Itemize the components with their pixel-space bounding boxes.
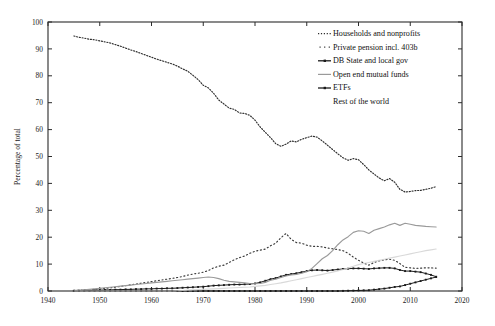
series-marker: [290, 290, 292, 292]
x-tick-label: 2010: [403, 296, 418, 305]
series-marker: [352, 290, 354, 292]
series-marker: [414, 271, 416, 273]
series-marker: [327, 270, 329, 272]
series-marker: [176, 287, 178, 289]
y-axis-title: Percentage of total: [13, 128, 22, 185]
x-tick-label: 1970: [196, 296, 211, 305]
line-chart: 0102030405060708090100194019501960197019…: [0, 0, 495, 326]
series-marker: [239, 290, 241, 292]
x-tick-label: 1950: [92, 296, 107, 305]
series-marker: [207, 285, 209, 287]
series-marker: [420, 280, 422, 282]
series-marker: [435, 276, 437, 278]
series-marker: [166, 287, 168, 289]
series-marker: [182, 287, 184, 289]
y-tick-label: 70: [36, 98, 44, 107]
series-marker: [264, 280, 266, 282]
series-marker: [368, 289, 370, 291]
series-marker: [295, 290, 297, 292]
series-marker: [171, 287, 173, 289]
series-marker: [254, 290, 256, 292]
series-marker: [373, 267, 375, 269]
series-marker: [218, 284, 220, 286]
series-marker: [399, 269, 401, 271]
series-marker: [239, 284, 241, 286]
series-marker: [430, 277, 432, 279]
series-marker: [301, 290, 303, 292]
series-marker: [373, 289, 375, 291]
series-marker: [151, 288, 153, 290]
series-marker: [233, 284, 235, 286]
series-marker: [197, 286, 199, 288]
series-marker: [145, 288, 147, 290]
series-marker: [389, 267, 391, 269]
series-marker: [202, 286, 204, 288]
series-marker: [233, 290, 235, 292]
series-marker: [404, 270, 406, 272]
y-tick-label: 20: [36, 233, 44, 242]
legend-item[interactable]: Private pension incl. 403b: [320, 43, 418, 52]
series-marker: [280, 290, 282, 292]
series-marker: [409, 283, 411, 285]
series-marker: [311, 269, 313, 271]
series-line: [74, 223, 436, 290]
series-marker: [425, 279, 427, 281]
series-marker: [135, 288, 137, 290]
series-marker: [414, 281, 416, 283]
series-marker: [244, 283, 246, 285]
series-marker: [378, 288, 380, 290]
series-marker: [368, 268, 370, 270]
y-tick-label: 50: [36, 152, 44, 161]
legend-label: Open end mutual funds: [333, 70, 409, 79]
series-marker: [275, 290, 277, 292]
series-marker: [321, 290, 323, 292]
series-line: [74, 233, 436, 290]
legend-label: DB State and local gov: [333, 56, 409, 65]
series-marker: [223, 290, 225, 292]
legend-label: ETFs: [333, 83, 351, 92]
series-marker: [378, 267, 380, 269]
series-marker: [425, 273, 427, 275]
legend-label: Rest of the world: [333, 97, 389, 106]
series-marker: [140, 288, 142, 290]
series-marker: [311, 290, 313, 292]
series-marker: [218, 290, 220, 292]
series-marker: [197, 290, 199, 292]
chart-figure: 0102030405060708090100194019501960197019…: [0, 0, 495, 326]
series-open-end-mutual-funds: [74, 223, 436, 290]
series-marker: [420, 271, 422, 273]
series-marker: [363, 289, 365, 291]
series-marker: [347, 290, 349, 292]
y-tick-label: 80: [36, 71, 44, 80]
legend-item[interactable]: Open end mutual funds: [318, 70, 409, 79]
series-private-pension-incl-403b: [74, 233, 436, 290]
series-marker: [161, 288, 163, 290]
series-marker: [321, 269, 323, 271]
series-rest-of-the-world: [74, 249, 436, 291]
series-marker: [383, 267, 385, 269]
series-marker: [316, 290, 318, 292]
series-marker: [332, 269, 334, 271]
series-marker: [327, 290, 329, 292]
series-marker: [337, 290, 339, 292]
series-marker: [394, 286, 396, 288]
series-marker: [192, 286, 194, 288]
legend-item[interactable]: Households and nonprofits: [318, 29, 420, 38]
y-tick-label: 60: [36, 125, 44, 134]
series-marker: [363, 268, 365, 270]
legend-item[interactable]: DB State and local gov: [318, 56, 409, 65]
legend-item[interactable]: Rest of the world: [333, 97, 389, 106]
series-marker: [270, 290, 272, 292]
series-marker: [358, 290, 360, 292]
series-marker: [244, 290, 246, 292]
series-marker: [316, 269, 318, 271]
series-marker: [389, 287, 391, 289]
legend-item[interactable]: ETFs: [318, 83, 351, 92]
series-marker: [202, 290, 204, 292]
series-marker: [187, 287, 189, 289]
series-marker: [213, 290, 215, 292]
legend-swatch-marker: [324, 60, 326, 62]
series-marker: [228, 284, 230, 286]
legend-swatch-marker: [324, 87, 326, 89]
series-marker: [358, 267, 360, 269]
